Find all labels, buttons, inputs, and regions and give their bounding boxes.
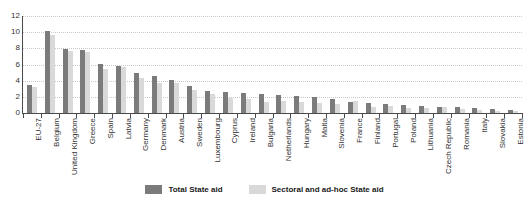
- bar-group: [508, 16, 518, 113]
- y-axis-tick-label: 8: [2, 44, 20, 52]
- chart-legend: Total State aid Sectoral and ad-hoc Stat…: [0, 181, 529, 197]
- legend-label-total-state-aid: Total State aid: [168, 185, 222, 194]
- x-axis-label: Bulgaria: [267, 118, 275, 147]
- x-axis-label: France: [356, 118, 364, 143]
- x-axis-labels: EU-27BelgiumUnited KingdomGreeceSpainLat…: [23, 118, 522, 176]
- bar-group: [116, 16, 126, 113]
- bar-group: [312, 16, 322, 113]
- bar-sectoral-ad-hoc-state-aid: [317, 103, 322, 114]
- bar-sectoral-ad-hoc-state-aid: [281, 101, 286, 113]
- bar-sectoral-ad-hoc-state-aid: [388, 106, 393, 113]
- bar-group: [330, 16, 340, 113]
- x-axis-label: Italy: [481, 118, 489, 133]
- bar-sectoral-ad-hoc-state-aid: [335, 104, 340, 113]
- x-axis-label: Ireland: [249, 118, 257, 142]
- x-axis-label: Portugal: [392, 118, 400, 148]
- x-axis-label: United Kingdom: [71, 118, 79, 175]
- x-axis-label: Latvia: [125, 118, 133, 139]
- x-axis-label: Poland: [410, 118, 418, 143]
- x-axis-label: Slovenia: [338, 118, 346, 149]
- x-axis-label: Slovakia: [499, 118, 507, 148]
- bar-group: [472, 16, 482, 113]
- bar-group: [205, 16, 215, 113]
- bar-group: [223, 16, 233, 113]
- legend-label-sectoral-ad-hoc-state-aid: Sectoral and ad-hoc State aid: [272, 185, 384, 194]
- legend-item-sectoral-ad-hoc-state-aid: Sectoral and ad-hoc State aid: [249, 185, 384, 194]
- x-axis-label: Denmark: [160, 118, 168, 150]
- bar-group: [134, 16, 144, 113]
- y-axis-tick-label: 10: [2, 28, 20, 36]
- bar-group: [45, 16, 55, 113]
- x-axis-label: Czech Republic: [445, 118, 453, 174]
- bar-sectoral-ad-hoc-state-aid: [246, 99, 251, 113]
- bar-group: [169, 16, 179, 113]
- y-axis-tick-label: 6: [2, 61, 20, 69]
- y-axis-tick-label: 2: [2, 93, 20, 101]
- y-axis-tick-label: 0: [2, 109, 20, 117]
- bar-sectoral-ad-hoc-state-aid: [50, 35, 55, 113]
- bar-sectoral-ad-hoc-state-aid: [299, 102, 304, 113]
- x-axis-label: Hungary: [303, 118, 311, 148]
- bar-group: [187, 16, 197, 113]
- bar-sectoral-ad-hoc-state-aid: [210, 94, 215, 113]
- bar-sectoral-ad-hoc-state-aid: [85, 52, 90, 113]
- legend-swatch-sectoral-ad-hoc-state-aid: [249, 185, 266, 194]
- bar-group: [241, 16, 251, 113]
- bar-sectoral-ad-hoc-state-aid: [68, 51, 73, 113]
- bar-sectoral-ad-hoc-state-aid: [139, 78, 144, 113]
- bar-sectoral-ad-hoc-state-aid: [192, 90, 197, 113]
- x-axis-label: Estonia: [517, 118, 525, 145]
- x-axis-label: Austria: [178, 118, 186, 143]
- bar-group: [294, 16, 304, 113]
- x-axis-label: Finland: [374, 118, 382, 144]
- bar-sectoral-ad-hoc-state-aid: [228, 98, 233, 113]
- bar-group: [401, 16, 411, 113]
- bar-sectoral-ad-hoc-state-aid: [103, 69, 108, 113]
- bar-group: [490, 16, 500, 113]
- bar-series-container: [23, 16, 522, 113]
- bar-group: [455, 16, 465, 113]
- bar-sectoral-ad-hoc-state-aid: [174, 83, 179, 113]
- bar-group: [276, 16, 286, 113]
- bar-group: [259, 16, 269, 113]
- bar-sectoral-ad-hoc-state-aid: [353, 101, 358, 113]
- x-axis-label: EU-27: [35, 118, 43, 141]
- bar-sectoral-ad-hoc-state-aid: [32, 87, 37, 113]
- bar-sectoral-ad-hoc-state-aid: [121, 67, 126, 113]
- bar-group: [419, 16, 429, 113]
- y-axis: 024681012: [0, 16, 20, 113]
- legend-item-total-state-aid: Total State aid: [145, 185, 222, 194]
- bar-group: [383, 16, 393, 113]
- bar-sectoral-ad-hoc-state-aid: [264, 102, 269, 113]
- bar-group: [152, 16, 162, 113]
- x-axis-label: Luxembourg: [214, 118, 222, 162]
- x-axis-label: Cyprus: [231, 118, 239, 143]
- x-axis-label: Belgium: [53, 118, 61, 147]
- bar-chart: 024681012 EU-27BelgiumUnited KingdomGree…: [0, 0, 529, 203]
- bar-group: [63, 16, 73, 113]
- x-axis-label: Spain: [107, 118, 115, 138]
- x-axis-label: Malta: [321, 118, 329, 138]
- bar-group: [27, 16, 37, 113]
- bar-group: [80, 16, 90, 113]
- x-axis-label: Greece: [89, 118, 97, 144]
- bar-group: [348, 16, 358, 113]
- x-axis-label: Germany: [142, 118, 150, 151]
- legend-swatch-total-state-aid: [145, 185, 162, 194]
- bar-group: [437, 16, 447, 113]
- x-axis-label: Sweden: [196, 118, 204, 147]
- x-axis-label: Netherlands: [285, 118, 293, 161]
- bar-group: [366, 16, 376, 113]
- bar-group: [98, 16, 108, 113]
- x-axis-label: Lithuania: [427, 118, 435, 150]
- bar-sectoral-ad-hoc-state-aid: [157, 83, 162, 113]
- x-axis-label: Romania: [463, 118, 471, 150]
- y-axis-tick-label: 12: [2, 12, 20, 20]
- y-axis-tick-label: 4: [2, 77, 20, 85]
